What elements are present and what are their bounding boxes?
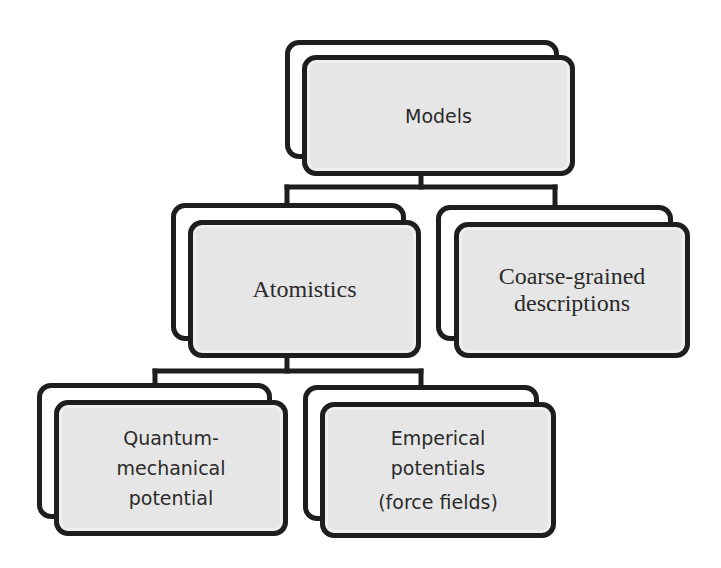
- node-models-label: Models: [405, 101, 472, 131]
- node-emperical-label-line-3: (force fields): [378, 487, 498, 517]
- node-emperical-label-line-2: potentials: [378, 453, 498, 483]
- node-atomistics-box: Atomistics: [188, 220, 421, 358]
- node-quantum-label-line-2: mechanical: [116, 453, 225, 483]
- node-models-box: Models: [302, 55, 575, 176]
- node-emperical-box: Emperical potentials (force fields): [320, 402, 556, 538]
- node-coarse-grained-label-line-2: descriptions: [499, 290, 646, 317]
- node-coarse-grained-label-line-1: Coarse-grained: [499, 263, 646, 290]
- node-quantum-label-line-1: Quantum-: [116, 423, 225, 453]
- node-quantum-label-line-3: potential: [116, 483, 225, 513]
- node-quantum-box: Quantum- mechanical potential: [54, 400, 288, 536]
- node-emperical-label-line-1: Emperical: [378, 423, 498, 453]
- node-coarse-grained-box: Coarse-grained descriptions: [454, 222, 690, 358]
- node-atomistics-label: Atomistics: [252, 276, 356, 303]
